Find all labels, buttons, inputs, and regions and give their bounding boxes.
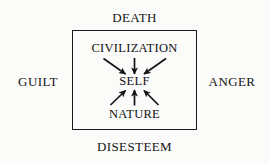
outer-label-top: DEATH (0, 11, 269, 24)
inner-label-top: CIVILIZATION (72, 42, 197, 55)
inner-label-center: SELF (72, 75, 197, 88)
outer-label-right: ANGER (200, 75, 264, 88)
diagram-canvas: DEATH GUILT ANGER DISESTEEM CIVILIZATION… (0, 0, 269, 164)
inner-label-bottom: NATURE (72, 108, 197, 121)
outer-label-left: GUILT (6, 75, 70, 88)
outer-label-bottom: DISESTEEM (0, 140, 269, 153)
